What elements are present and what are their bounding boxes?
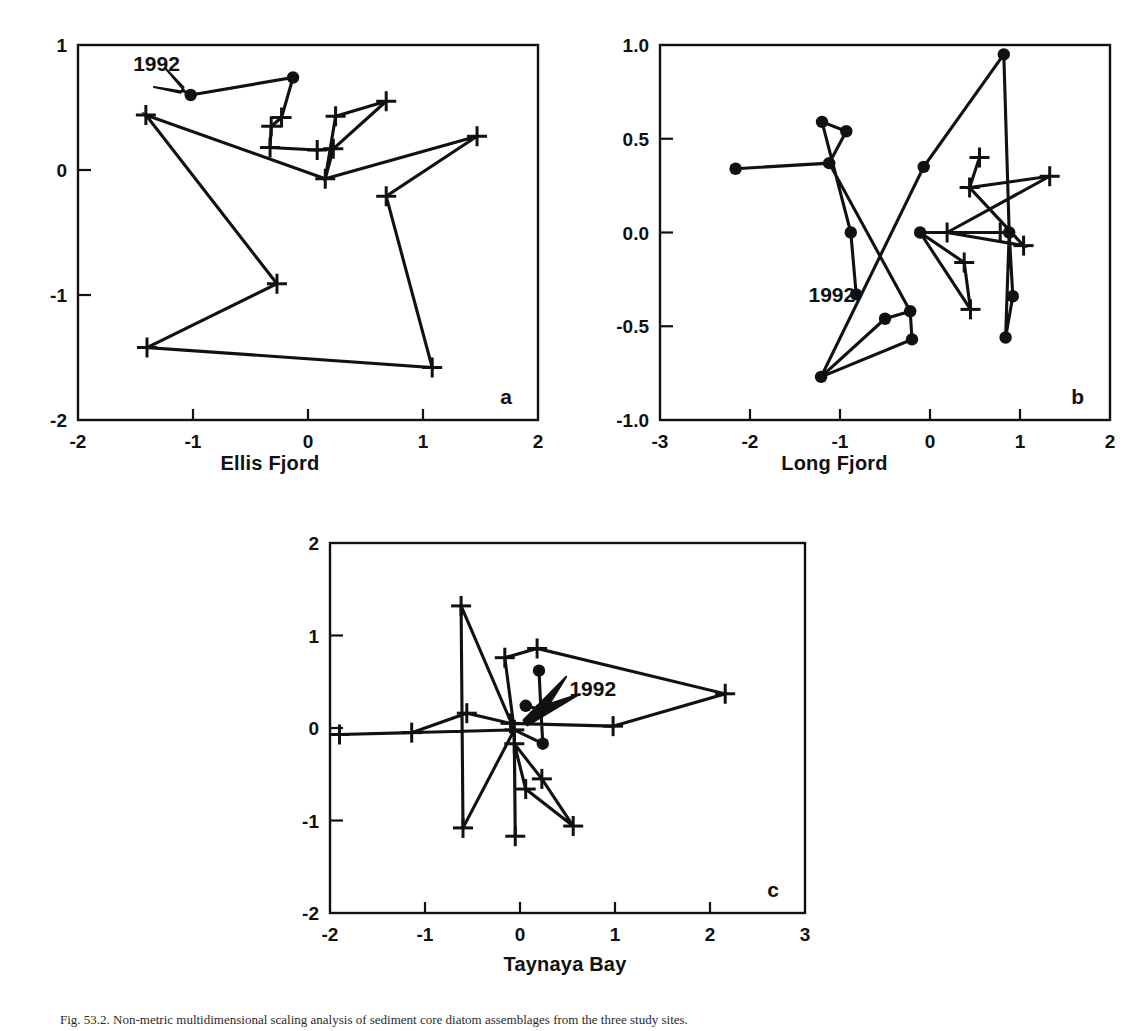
y-tick-label: -2 (50, 410, 67, 431)
plot-frame (330, 543, 805, 913)
data-point-plus (527, 638, 547, 658)
data-point-plus (954, 253, 974, 273)
data-point-circle (918, 161, 930, 173)
panel-a-title: Ellis Fjord (0, 452, 540, 475)
data-point-circle (823, 157, 835, 169)
x-tick-label: -1 (832, 431, 849, 452)
panel-b-title: Long Fjord (560, 452, 1109, 475)
figure-caption: Fig. 53.2. Non-metric multidimensional s… (60, 1012, 1077, 1031)
data-point-circle (537, 738, 549, 750)
x-tick-label: 0 (515, 924, 526, 945)
x-tick-label: 0 (303, 431, 314, 452)
data-point-plus (467, 126, 487, 146)
data-point-circle (906, 333, 918, 345)
data-point-plus (970, 148, 990, 168)
data-point-plus (137, 338, 157, 358)
figure-container: -2-101210-1-21992a Ellis Fjord -3-2-1012… (0, 0, 1129, 1031)
data-point-plus (451, 596, 471, 616)
year-annotation-label: 1992 (133, 52, 180, 75)
y-tick-label: -1 (302, 811, 319, 832)
panel-ellis-fjord: -2-101210-1-21992a Ellis Fjord (0, 0, 560, 500)
x-tick-label: 3 (800, 924, 811, 945)
y-tick-label: 0.0 (623, 223, 649, 244)
plot-long-fjord: -3-2-10121.00.50.0-0.5-1.01992b (560, 0, 1129, 470)
data-point-plus (260, 138, 280, 158)
data-point-circle (185, 89, 197, 101)
x-tick-label: 2 (1105, 431, 1116, 452)
data-point-circle (914, 226, 926, 238)
data-point-circle (998, 48, 1010, 60)
year-annotation-label: 1992 (809, 283, 856, 306)
data-point-circle (533, 664, 545, 676)
panel-letter: b (1071, 385, 1084, 408)
y-tick-label: 2 (308, 533, 319, 554)
x-tick-label: 1 (610, 924, 621, 945)
panel-letter: a (500, 385, 512, 408)
x-tick-label: 1 (418, 431, 429, 452)
data-point-plus (1040, 166, 1060, 186)
plot-taynaya-bay: -2-10123210-1-21992c (255, 505, 875, 965)
y-tick-label: 0 (56, 160, 67, 181)
data-point-plus (961, 299, 981, 319)
y-tick-label: -1 (50, 285, 67, 306)
data-point-circle (287, 71, 299, 83)
data-point-circle (840, 125, 852, 137)
data-point-plus (315, 169, 335, 189)
plot-frame (78, 45, 538, 420)
y-tick-label: 0.5 (623, 129, 650, 150)
data-point-circle (520, 700, 532, 712)
data-point-circle (904, 305, 916, 317)
y-tick-label: 1.0 (623, 35, 649, 56)
data-point-plus (505, 826, 525, 846)
plot-frame (660, 45, 1110, 420)
panel-taynaya-bay: -2-10123210-1-21992c Taynaya Bay (255, 505, 875, 1005)
x-tick-label: -3 (652, 431, 669, 452)
data-point-plus (603, 716, 623, 736)
data-point-circle (816, 116, 828, 128)
x-tick-label: 2 (533, 431, 544, 452)
data-point-circle (879, 313, 891, 325)
panel-letter: c (767, 878, 779, 901)
y-tick-label: -0.5 (616, 316, 649, 337)
y-tick-label: 0 (308, 718, 319, 739)
trajectory-line (736, 54, 1050, 377)
y-tick-label: 1 (308, 626, 319, 647)
x-tick-label: 1 (1015, 431, 1026, 452)
data-point-plus (453, 818, 473, 838)
y-tick-label: -1.0 (616, 410, 649, 431)
data-point-circle (999, 331, 1011, 343)
panel-long-fjord: -3-2-10121.00.50.0-0.5-1.01992b Long Fjo… (560, 0, 1129, 500)
x-tick-label: 0 (925, 431, 936, 452)
x-tick-label: -1 (185, 431, 202, 452)
x-tick-label: -2 (70, 431, 87, 452)
data-point-circle (845, 226, 857, 238)
data-point-plus (937, 223, 957, 243)
data-point-plus (422, 358, 442, 378)
x-tick-label: -1 (417, 924, 434, 945)
y-tick-label: 1 (56, 35, 67, 56)
data-point-circle (729, 163, 741, 175)
data-point-circle (815, 371, 827, 383)
x-tick-label: -2 (742, 431, 759, 452)
plot-ellis-fjord: -2-101210-1-21992a (0, 0, 560, 470)
data-point-circle (1007, 290, 1019, 302)
data-point-plus (715, 684, 735, 704)
data-point-plus (495, 648, 515, 668)
x-tick-label: -2 (322, 924, 339, 945)
trajectory-line (146, 78, 477, 368)
data-point-plus (376, 186, 396, 206)
data-point-plus (402, 723, 422, 743)
panel-c-title: Taynaya Bay (255, 953, 875, 976)
y-tick-label: -2 (302, 903, 319, 924)
data-point-plus (457, 703, 477, 723)
data-point-plus (326, 106, 346, 126)
x-tick-label: 2 (705, 924, 716, 945)
